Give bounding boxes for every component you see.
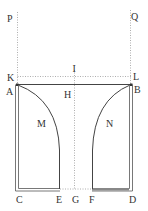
outer-line-ace <box>16 85 61 192</box>
label-n: N <box>106 118 113 129</box>
label-a: A <box>6 86 14 97</box>
label-m: M <box>37 118 46 129</box>
label-q: Q <box>131 11 139 22</box>
label-h: H <box>64 89 71 100</box>
label-f: F <box>89 194 95 205</box>
inner-line-bdf <box>92 86 130 189</box>
label-k: K <box>7 72 15 83</box>
inner-line-ace <box>19 86 61 189</box>
curve-bnf <box>93 85 131 189</box>
outer-line-bdf <box>92 85 133 192</box>
thick-segment-fd <box>92 188 129 191</box>
label-l: L <box>133 71 139 82</box>
label-d: D <box>129 194 136 205</box>
label-p: P <box>7 13 13 24</box>
curve-ame <box>18 85 60 189</box>
label-b: B <box>134 84 141 95</box>
label-i: I <box>73 63 76 74</box>
geometry-diagram: P Q K L I A B H M N C E G F D <box>0 0 148 211</box>
label-e: E <box>56 194 62 205</box>
label-g: G <box>72 194 79 205</box>
label-c: C <box>16 194 23 205</box>
